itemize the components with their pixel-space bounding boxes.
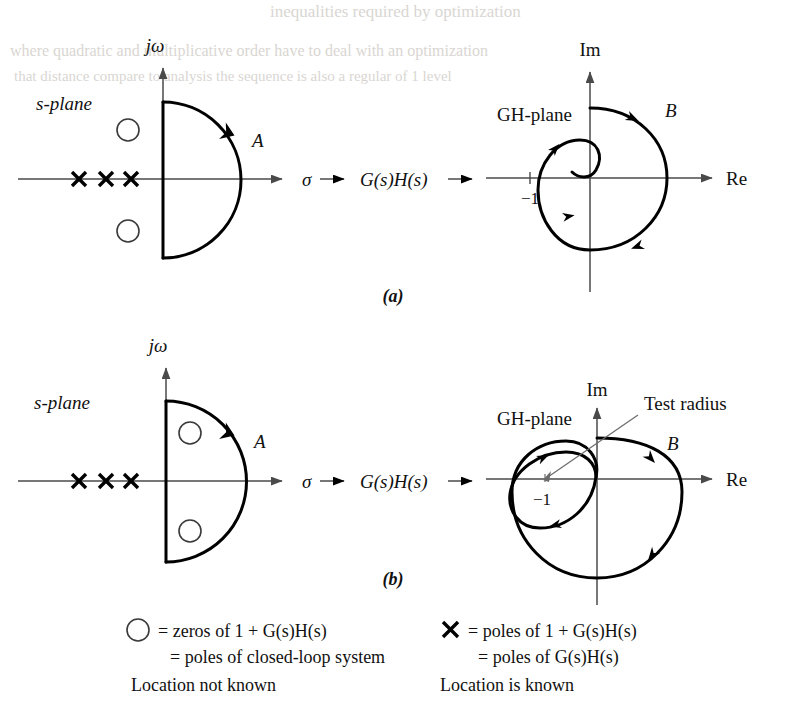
panel-b-zero-2 [179,520,201,542]
panel-b-mapping-function-label: G(s)H(s) [360,471,428,493]
panel-a-gh-plane-label: GH-plane [497,104,572,125]
panel-a-id: (a) [383,286,404,307]
panel-a-s-plane-axes [18,68,282,182]
panel-b-s-plane-axes [18,368,282,484]
panel-b-nyquist-label-B: B [667,433,679,454]
panel-b-critical-point-label: −1 [533,490,551,509]
panel-a-re-label: Re [726,168,747,189]
panel-a-nyquist-outer-loop [538,108,667,253]
panel-a-nyquist-label-B: B [665,100,677,121]
panel-a-sigma-label: σ [302,169,312,190]
panel-a-s-contour [163,102,241,258]
panel-b-sigma-label: σ [302,471,312,492]
panel-a-critical-point-label: −1 [521,189,539,208]
panel-a-zero-1 [117,119,139,141]
panel-b-s-plane-label: s-plane [34,392,90,413]
legend-right-line-2: = poles of G(s)H(s) [478,647,619,668]
panel-a-zero-2 [117,220,139,242]
panel-a-im-label: Im [579,39,600,60]
panel-b-im-label: Im [586,379,607,400]
panel-b-id: (b) [383,569,404,590]
panel-a-jomega-label: jω [143,35,165,56]
legend-pole-symbol-icon [443,622,458,637]
panel-b-test-radius-label: Test radius [644,393,727,414]
panel-b-zero-1 [179,422,201,444]
panel-b-nyquist-inner-loop [510,451,596,531]
panel-a-mapping-function-label: G(s)H(s) [360,169,428,191]
legend-left-line-1: = zeros of 1 + G(s)H(s) [158,621,327,642]
panel-b-contour-label-A: A [252,431,266,452]
panel-b-jomega-label: jω [146,335,168,356]
nyquist-criterion-figure: inequalities required by optimization wh… [0,0,785,719]
legend-left-line-2: = poles of closed-loop system [170,647,385,667]
panel-a-contour-label-A: A [250,130,264,151]
panel-a-s-plane-label: s-plane [36,93,92,114]
legend-zero-symbol-icon [127,619,149,641]
legend-right-line-1: = poles of 1 + G(s)H(s) [468,621,637,642]
legend-right-line-3: Location is known [440,675,574,695]
panel-b-gh-plane-label: GH-plane [497,408,572,429]
panel-b-re-label: Re [726,469,747,490]
legend-left-line-3: Location not known [131,675,276,695]
